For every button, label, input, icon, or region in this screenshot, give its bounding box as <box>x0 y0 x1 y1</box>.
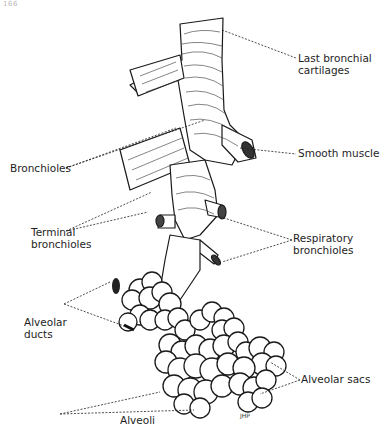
artist-initials: JHP <box>239 412 250 420</box>
label-alveolar-sacs: Alveolar sacs <box>301 373 370 385</box>
label-last-bronchial-cartilages: Last bronchial cartilages <box>298 52 372 76</box>
label-respiratory-bronchioles: Respiratory bronchioles <box>293 232 353 256</box>
label-alveolar-ducts: Alveolar ducts <box>24 316 67 340</box>
label-smooth-muscle: Smooth muscle <box>298 147 379 159</box>
label-bronchioles: Bronchioles <box>10 162 71 174</box>
label-terminal-bronchioles: Terminal bronchioles <box>31 226 91 250</box>
label-alveoli: Alveoli <box>120 414 155 426</box>
